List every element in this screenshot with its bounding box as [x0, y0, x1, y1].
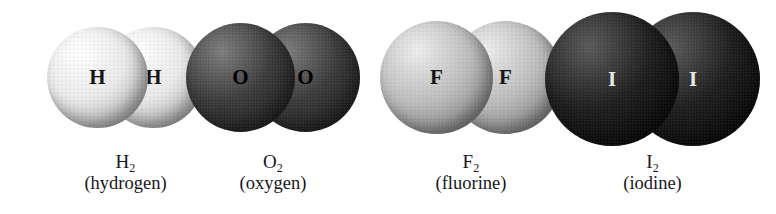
space-filling-model-iodine: II [545, 12, 760, 146]
formula-element-oxygen: O [263, 151, 277, 172]
caption-iodine: I2(iodine) [503, 152, 776, 194]
diatomic-molecules-figure: HHH2(hydrogen)OOO2(oxygen)FFF2(fluorine)… [0, 0, 776, 214]
atom-symbol-hydrogen: H [89, 67, 105, 88]
atom-sphere-oxygen: O [186, 23, 295, 132]
atom-sphere-hydrogen: H [47, 27, 148, 128]
atom-sphere-fluorine: F [380, 21, 493, 134]
atom-sphere-iodine: I [545, 12, 679, 146]
common-name-iodine: (iodine) [503, 173, 776, 194]
atom-symbol-iodine: I [608, 69, 616, 90]
formula-element-fluorine: F [463, 151, 474, 172]
molecule-iodine: III2(iodine) [545, 0, 760, 214]
atom-symbol-iodine: I [689, 69, 697, 90]
space-filling-model-fluorine: FF [380, 21, 562, 134]
atom-symbol-oxygen: O [232, 67, 248, 88]
space-filling-model-hydrogen: HH [47, 27, 204, 128]
space-filling-model-oxygen: OO [186, 23, 360, 132]
atom-symbol-fluorine: F [430, 67, 443, 88]
formula-iodine: I2 [503, 152, 776, 172]
atom-symbol-fluorine: F [499, 67, 512, 88]
atom-symbol-oxygen: O [297, 67, 313, 88]
